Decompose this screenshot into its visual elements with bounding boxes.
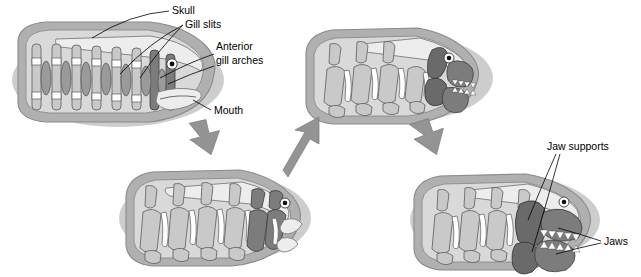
label-jaw-supports-text: Jaw supports [547,140,609,152]
eye-panel-2 [444,53,454,63]
label-skull-text: Skull [172,4,195,16]
panel-3-jointed-arches [119,170,311,266]
panel-4-modern-jaws [410,174,600,274]
panel-2-forming-jaws [306,28,493,124]
eye-panel-4 [559,197,569,207]
label-gill-slits-text: Gill slits [185,18,221,30]
arrow-1-panel1-to-panel3 [185,117,220,155]
label-jaws-text: Jaws [604,235,628,247]
eye-panel-3 [280,198,290,208]
label-mouth-text: Mouth [214,104,243,116]
label-anterior-line1: Anterior [216,40,253,52]
eye-panel-1 [167,59,177,69]
panel-1-jawless-fish [12,22,224,127]
label-anterior-line2: gill arches [216,54,263,66]
arrow-2-panel3-to-panel2 [283,117,319,177]
diagram-canvas: Skull Gill slits Anterior gill arches Mo… [0,0,641,277]
